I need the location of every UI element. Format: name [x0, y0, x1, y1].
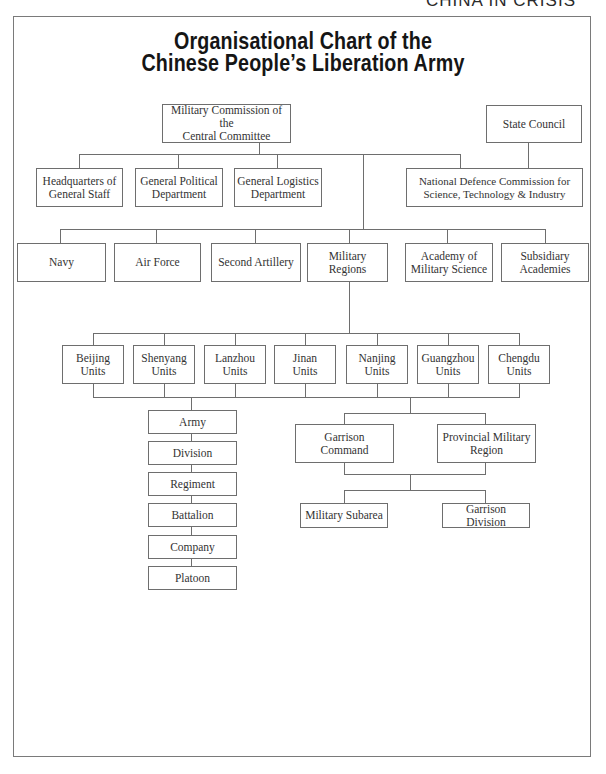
army-chain-box-division: Division	[148, 441, 237, 465]
military-subarea-box: Military Subarea	[300, 503, 388, 528]
military-commission-label: Military Commission of the Central Commi…	[165, 104, 288, 143]
connector	[349, 282, 350, 333]
connector	[460, 154, 461, 168]
connector	[79, 154, 80, 168]
branch-box-air-force: Air Force	[114, 243, 201, 282]
unit-label: Shenyang Units	[141, 352, 186, 378]
branch-box-subsidiary-academies: Subsidiary Academies	[501, 243, 589, 282]
garrison-division-box: Garrison Division	[442, 503, 530, 528]
unit-label: Guangzhou Units	[421, 352, 474, 378]
connector	[519, 333, 520, 345]
connector	[344, 490, 345, 503]
connector	[519, 384, 520, 397]
connector	[235, 384, 236, 397]
connector	[178, 154, 179, 168]
department-label: Headquarters of General Staff	[43, 175, 117, 201]
branch-box-academy-military-science: Academy of Military Science	[405, 243, 493, 282]
provincial-military-region-box: Provincial Military Region	[437, 424, 536, 463]
connector	[349, 229, 350, 243]
connector	[545, 229, 546, 243]
army-chain-label: Platoon	[175, 572, 210, 585]
unit-label: Jinan Units	[293, 352, 318, 378]
garrison-division-label: Garrison Division	[445, 503, 527, 529]
branch-label: Subsidiary Academies	[519, 250, 570, 276]
branch-box-second-artillery: Second Artillery	[211, 243, 301, 282]
department-label: General Logistics Department	[237, 175, 318, 201]
connector	[528, 143, 529, 168]
connector	[164, 333, 165, 345]
army-chain-box-platoon: Platoon	[148, 566, 237, 590]
unit-box-nanjing: Nanjing Units	[346, 345, 408, 384]
connector	[191, 527, 192, 535]
chart-title: Organisational Chart of the Chinese Peop…	[55, 30, 552, 74]
connector	[448, 384, 449, 397]
army-chain-box-company: Company	[148, 535, 237, 559]
military-commission-box: Military Commission of the Central Commi…	[162, 104, 291, 143]
branch-box-navy: Navy	[17, 243, 106, 282]
connector	[164, 384, 165, 397]
provincial-military-region-label: Provincial Military Region	[443, 431, 531, 457]
unit-box-shenyang: Shenyang Units	[133, 345, 195, 384]
connector	[410, 397, 411, 413]
connector	[485, 490, 486, 503]
ndc-label: National Defence Commission for Science,…	[419, 175, 570, 201]
army-chain-box-army: Army	[148, 410, 237, 434]
connector	[448, 333, 449, 345]
army-chain-label: Company	[170, 541, 215, 554]
connector	[93, 384, 94, 397]
branch-label: Air Force	[135, 256, 179, 269]
branch-label: Second Artillery	[218, 256, 294, 269]
connector	[305, 333, 306, 345]
unit-box-beijing: Beijing Units	[62, 345, 124, 384]
connector	[344, 463, 345, 474]
branch-box-military-regions: Military Regions	[307, 243, 388, 282]
connector	[191, 465, 192, 472]
connector	[93, 333, 94, 345]
connector	[344, 413, 345, 424]
title-line-2: Chinese People’s Liberation Army	[55, 52, 552, 74]
connector	[60, 229, 546, 230]
unit-box-lanzhou: Lanzhou Units	[204, 345, 266, 384]
connector	[277, 154, 278, 168]
army-chain-label: Regiment	[170, 478, 215, 491]
garrison-command-box: Garrison Command	[295, 424, 394, 463]
connector	[156, 229, 157, 243]
unit-label: Beijing Units	[76, 352, 110, 378]
ndc-box: National Defence Commission for Science,…	[406, 168, 583, 207]
connector	[344, 490, 486, 491]
department-box-hq-general-staff: Headquarters of General Staff	[36, 168, 123, 207]
branch-label: Military Regions	[310, 250, 385, 276]
connector	[191, 496, 192, 503]
state-council-label: State Council	[503, 118, 565, 131]
connector	[377, 333, 378, 345]
running-head: CHINA IN CRISIS	[426, 0, 576, 11]
military-subarea-label: Military Subarea	[305, 509, 383, 522]
army-chain-box-regiment: Regiment	[148, 472, 237, 496]
department-box-general-logistics: General Logistics Department	[234, 168, 322, 207]
connector	[485, 463, 486, 474]
connector	[410, 474, 411, 490]
garrison-command-label: Garrison Command	[321, 431, 369, 457]
army-chain-label: Battalion	[171, 509, 213, 522]
unit-label: Chengdu Units	[498, 352, 540, 378]
department-box-general-political: General Political Department	[135, 168, 223, 207]
branch-label: Navy	[49, 256, 74, 269]
connector	[60, 229, 61, 243]
connector	[79, 154, 461, 155]
state-council-box: State Council	[486, 105, 582, 143]
connector	[93, 397, 520, 398]
unit-label: Nanjing Units	[358, 352, 395, 378]
connector	[485, 413, 486, 424]
connector	[344, 474, 486, 475]
connector	[344, 413, 486, 414]
connector	[235, 333, 236, 345]
army-chain-box-battalion: Battalion	[148, 503, 237, 527]
army-chain-label: Division	[173, 447, 213, 460]
connector	[191, 434, 192, 441]
connector	[305, 384, 306, 397]
connector	[255, 229, 256, 243]
department-label: General Political Department	[140, 175, 218, 201]
connector	[447, 229, 448, 243]
unit-label: Lanzhou Units	[215, 352, 255, 378]
connector	[93, 333, 520, 334]
